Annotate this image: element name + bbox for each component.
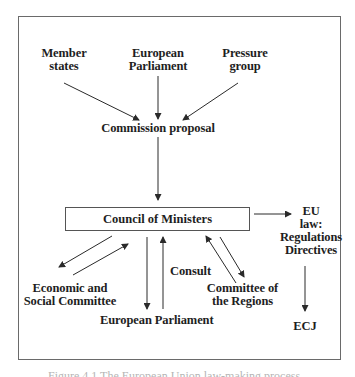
consult-label: Consult bbox=[170, 265, 210, 278]
eu-law-label: EU law: Regulations Directives bbox=[277, 205, 345, 257]
council-of-ministers-box: Council of Ministers bbox=[65, 207, 250, 231]
arrow-pressure-group bbox=[183, 83, 238, 120]
european-parliament-source-label: European Parliament bbox=[118, 47, 198, 73]
arrow-esc-to-council bbox=[73, 244, 128, 275]
figure-caption: Figure 4.1 The European Union law-making… bbox=[48, 368, 308, 377]
economic-social-committee-label: Economic and Social Committee bbox=[22, 282, 118, 308]
council-of-ministers-label: Council of Ministers bbox=[103, 212, 212, 227]
commission-proposal-label: Commission proposal bbox=[98, 122, 218, 135]
arrow-member-states bbox=[64, 83, 139, 120]
european-parliament-consultee-label: European Parliament bbox=[100, 314, 204, 327]
arrow-council-to-cor bbox=[220, 237, 244, 277]
ecj-label: ECJ bbox=[290, 320, 320, 333]
pressure-group-label: Pressure group bbox=[210, 47, 280, 73]
committee-of-regions-label: Committee of the Regions bbox=[205, 282, 280, 308]
member-states-label: Member states bbox=[28, 47, 100, 73]
arrow-council-to-esc bbox=[59, 236, 112, 267]
